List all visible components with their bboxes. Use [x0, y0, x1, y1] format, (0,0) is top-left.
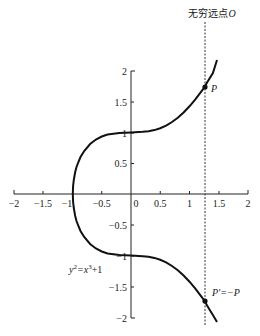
x-tick-label: 1	[187, 198, 192, 209]
point-p-prime-marker	[202, 298, 207, 303]
x-tick-labels: −2 −1.5 −1 −0.5 0 0.5 1 1.5 2	[9, 198, 251, 209]
x-tick-label: 0	[134, 198, 139, 209]
y-tick-label: −2	[116, 313, 127, 324]
y-tick-label: 1.5	[115, 97, 128, 108]
y-tick-label: −1	[116, 251, 127, 262]
x-tick-label: 0.5	[154, 198, 167, 209]
y-tick-label: −0.5	[109, 220, 127, 231]
x-tick-label: −1.5	[34, 198, 52, 209]
x-tick-label: 2	[246, 198, 251, 209]
curve-equation-label: y2=x3+1	[68, 263, 102, 275]
x-tick-label: 1.5	[213, 198, 226, 209]
x-tick-label: −2	[9, 198, 20, 209]
point-p-marker	[202, 84, 207, 89]
y-tick-label: 2	[122, 66, 127, 77]
point-p-prime-label: P'=−P	[211, 287, 240, 298]
infinity-point-label: 无穷远点O	[188, 7, 235, 19]
y-tick-labels: 2 1.5 1 0.5 −0.5 −1 −1.5 −2	[109, 66, 127, 324]
x-tick-label: −1	[62, 198, 73, 209]
elliptic-curve	[73, 60, 217, 322]
point-p-label: P	[210, 83, 217, 94]
elliptic-curve-chart: −2 −1.5 −1 −0.5 0 0.5 1 1.5 2 2 1.5 1 0.…	[0, 0, 260, 336]
y-tick-label: −1.5	[109, 282, 127, 293]
y-tick-label: 0.5	[115, 158, 128, 169]
x-tick-label: −0.5	[93, 198, 111, 209]
